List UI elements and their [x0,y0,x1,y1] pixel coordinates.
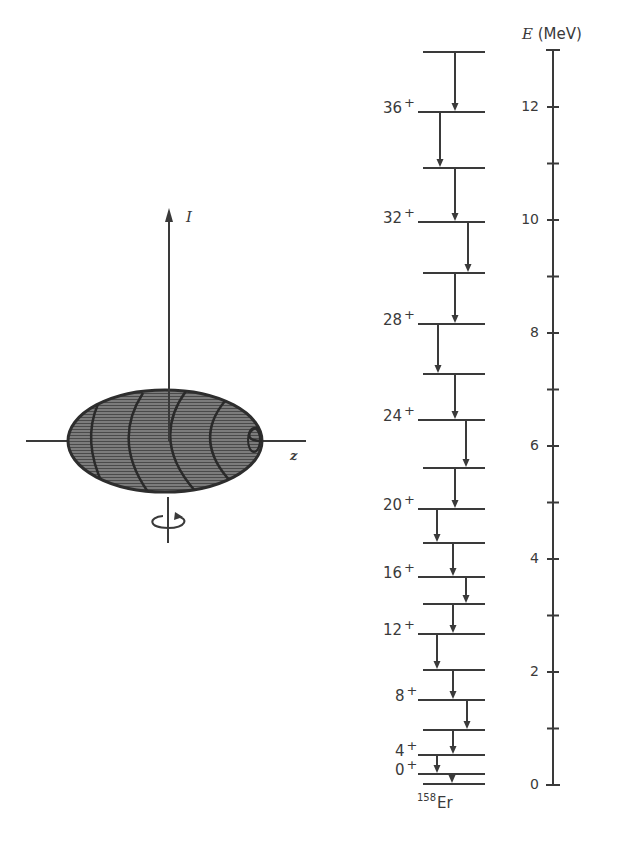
spin-label: 32+ [383,211,415,226]
spin-value: 0 [395,761,405,779]
energy-axis-title: E (MeV) [522,27,582,42]
energy-unit: (MeV) [538,25,582,43]
transition-arrowhead-icon [452,213,459,221]
transition-arrowhead-icon [452,103,459,111]
transition-arrowhead-icon [449,775,456,783]
symmetry-axis-label: z [290,449,297,462]
level-scheme [418,52,485,784]
energy-tick-label: 4 [509,551,539,565]
transition-arrowhead-icon [434,534,441,542]
spin-value: 24 [383,407,402,425]
spin-label: 36+ [383,101,415,116]
nucleus-label: 158Er [417,796,453,811]
nucleus-mass-number: 158 [417,792,436,803]
deformed-nucleus-figure [26,208,306,543]
spin-label: 28+ [383,313,415,328]
transitions [434,52,472,783]
energy-tick-label: 6 [509,438,539,452]
transition-arrowhead-icon [450,746,457,754]
transition-arrowhead-icon [463,459,470,467]
transition-arrowhead-icon [452,500,459,508]
spin-value: 36 [383,99,402,117]
transition-arrowhead-icon [434,661,441,669]
transition-arrowhead-icon [450,568,457,576]
transition-arrowhead-icon [450,691,457,699]
nucleus-symbol: Er [437,794,453,812]
diagram-canvas [0,0,620,842]
transition-arrowhead-icon [465,264,472,272]
transition-arrowhead-icon [463,595,470,603]
spin-value: 4 [395,742,405,760]
spin-value: 12 [383,621,402,639]
transition-arrowhead-icon [435,365,442,373]
spin-value: 20 [383,496,402,514]
energy-tick-label: 8 [509,325,539,339]
parity-sign: + [404,95,415,110]
parity-sign: + [404,403,415,418]
parity-sign: + [404,560,415,575]
transition-arrowhead-icon [437,159,444,167]
energy-tick-label: 10 [509,212,539,226]
spin-label: 0+ [395,763,417,778]
rotation-arrowhead-icon [174,512,183,520]
parity-sign: + [404,492,415,507]
spin-value: 32 [383,209,402,227]
parity-sign: + [404,617,415,632]
spin-value: 16 [383,564,402,582]
parity-sign: + [407,683,418,698]
parity-sign: + [407,738,418,753]
spin-value: 8 [395,687,405,705]
energy-tick-label: 2 [509,664,539,678]
transition-arrowhead-icon [434,765,441,773]
spin-label: 16+ [383,566,415,581]
transition-arrowhead-icon [452,315,459,323]
transition-arrowhead-icon [452,411,459,419]
parity-sign: + [404,205,415,220]
transition-arrowhead-icon [464,721,471,729]
spin-label: 12+ [383,623,415,638]
transition-arrowhead-icon [450,625,457,633]
parity-sign: + [407,757,418,772]
rotation-axis-label: I [186,210,192,225]
energy-tick-label: 12 [509,99,539,113]
energy-symbol: E [522,25,533,43]
spin-label: 20+ [383,498,415,513]
rotation-axis-arrowhead-icon [165,208,173,222]
spin-label: 8+ [395,689,417,704]
spin-label: 24+ [383,409,415,424]
energy-axis [546,50,560,785]
parity-sign: + [404,307,415,322]
spin-value: 28 [383,311,402,329]
energy-tick-label: 0 [509,777,539,791]
